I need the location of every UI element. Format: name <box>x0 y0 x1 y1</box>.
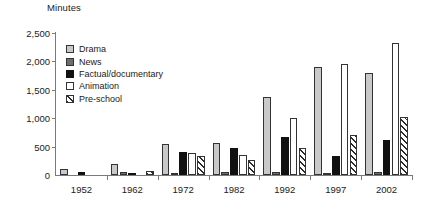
legend-item-news: News <box>66 55 163 67</box>
bar-preschool-1997 <box>350 135 358 175</box>
bar-drama-1997 <box>314 67 322 175</box>
bar-preschool-1982 <box>248 160 256 175</box>
bar-factual-1982 <box>230 148 238 175</box>
bar-news-1982 <box>221 172 229 175</box>
y-tick-label: 1,000 <box>6 113 50 124</box>
y-tick-mark <box>52 147 56 148</box>
legend-label: Pre-school <box>79 94 122 104</box>
x-tick-label-1997: 1997 <box>325 184 346 195</box>
legend-item-drama: Drama <box>66 43 163 55</box>
bar-preschool-1962 <box>146 171 154 175</box>
bar-animation-1992 <box>290 118 298 175</box>
bar-chart: Minutes 05001,0001,5002,0002,500 DramaNe… <box>0 0 425 217</box>
legend-swatch-factual-icon <box>66 70 74 78</box>
y-tick-mark <box>52 61 56 62</box>
bar-animation-2002 <box>392 43 400 175</box>
x-axis-separator <box>107 176 108 180</box>
y-tick-label: 1,500 <box>6 84 50 95</box>
bar-group-1982 <box>209 33 260 175</box>
legend-label: Factual/documentary <box>79 69 163 79</box>
bar-drama-2002 <box>365 73 373 175</box>
bar-news-1972 <box>171 173 179 175</box>
bar-preschool-1992 <box>299 148 307 175</box>
x-tick-label-1952: 1952 <box>71 184 92 195</box>
y-axis-labels: 05001,0001,5002,0002,500 <box>0 0 50 217</box>
x-tick-label-1992: 1992 <box>274 184 295 195</box>
x-tick-label-1972: 1972 <box>173 184 194 195</box>
bar-drama-1962 <box>111 164 119 175</box>
legend-item-preschool: Pre-school <box>66 93 163 105</box>
bar-news-1962 <box>120 172 128 175</box>
legend-label: News <box>79 57 102 67</box>
legend-swatch-drama-icon <box>66 45 74 53</box>
y-tick-label: 0 <box>6 170 50 181</box>
bar-preschool-1972 <box>197 156 205 175</box>
y-tick-mark <box>52 33 56 34</box>
bar-drama-1992 <box>263 97 271 175</box>
x-axis-separator <box>158 176 159 180</box>
x-axis-separator <box>310 176 311 180</box>
bar-factual-1962 <box>128 173 136 175</box>
legend-label: Drama <box>79 44 106 54</box>
bar-animation-1972 <box>188 153 196 175</box>
bar-group-1997 <box>310 33 361 175</box>
bar-factual-1952 <box>78 172 86 175</box>
bar-news-1997 <box>323 173 331 175</box>
bar-drama-1952 <box>60 169 68 175</box>
x-axis-separator <box>209 176 210 180</box>
x-axis-separator <box>361 176 362 180</box>
bar-drama-1972 <box>162 144 170 175</box>
legend-label: Animation <box>79 81 119 91</box>
bar-group-1992 <box>259 33 310 175</box>
bar-news-1992 <box>272 172 280 175</box>
x-axis-separator <box>259 176 260 180</box>
bar-factual-1972 <box>179 152 187 175</box>
bar-news-2002 <box>374 172 382 175</box>
bar-drama-1982 <box>213 143 221 175</box>
bar-preschool-2002 <box>400 117 408 175</box>
x-axis-separator <box>412 176 413 180</box>
x-tick-label-1962: 1962 <box>122 184 143 195</box>
legend-swatch-news-icon <box>66 58 74 66</box>
y-tick-label: 2,000 <box>6 56 50 67</box>
x-axis-line <box>55 175 413 176</box>
chart-legend: DramaNewsFactual/documentaryAnimationPre… <box>66 43 163 105</box>
bar-animation-1997 <box>341 64 349 175</box>
bar-animation-1982 <box>239 155 247 175</box>
bar-factual-1992 <box>281 137 289 175</box>
bar-group-2002 <box>361 33 412 175</box>
legend-swatch-preschool-icon <box>66 95 74 103</box>
bar-factual-1997 <box>332 156 340 175</box>
bar-factual-2002 <box>383 140 391 175</box>
legend-item-factual: Factual/documentary <box>66 68 163 80</box>
y-tick-label: 500 <box>6 141 50 152</box>
y-tick-mark <box>52 118 56 119</box>
x-tick-label-1982: 1982 <box>223 184 244 195</box>
y-axis-title: Minutes <box>47 2 81 13</box>
x-tick-label-2002: 2002 <box>376 184 397 195</box>
y-tick-label: 2,500 <box>6 28 50 39</box>
legend-swatch-animation-icon <box>66 82 74 90</box>
bar-group-1972 <box>158 33 209 175</box>
y-tick-mark <box>52 90 56 91</box>
legend-item-animation: Animation <box>66 80 163 92</box>
